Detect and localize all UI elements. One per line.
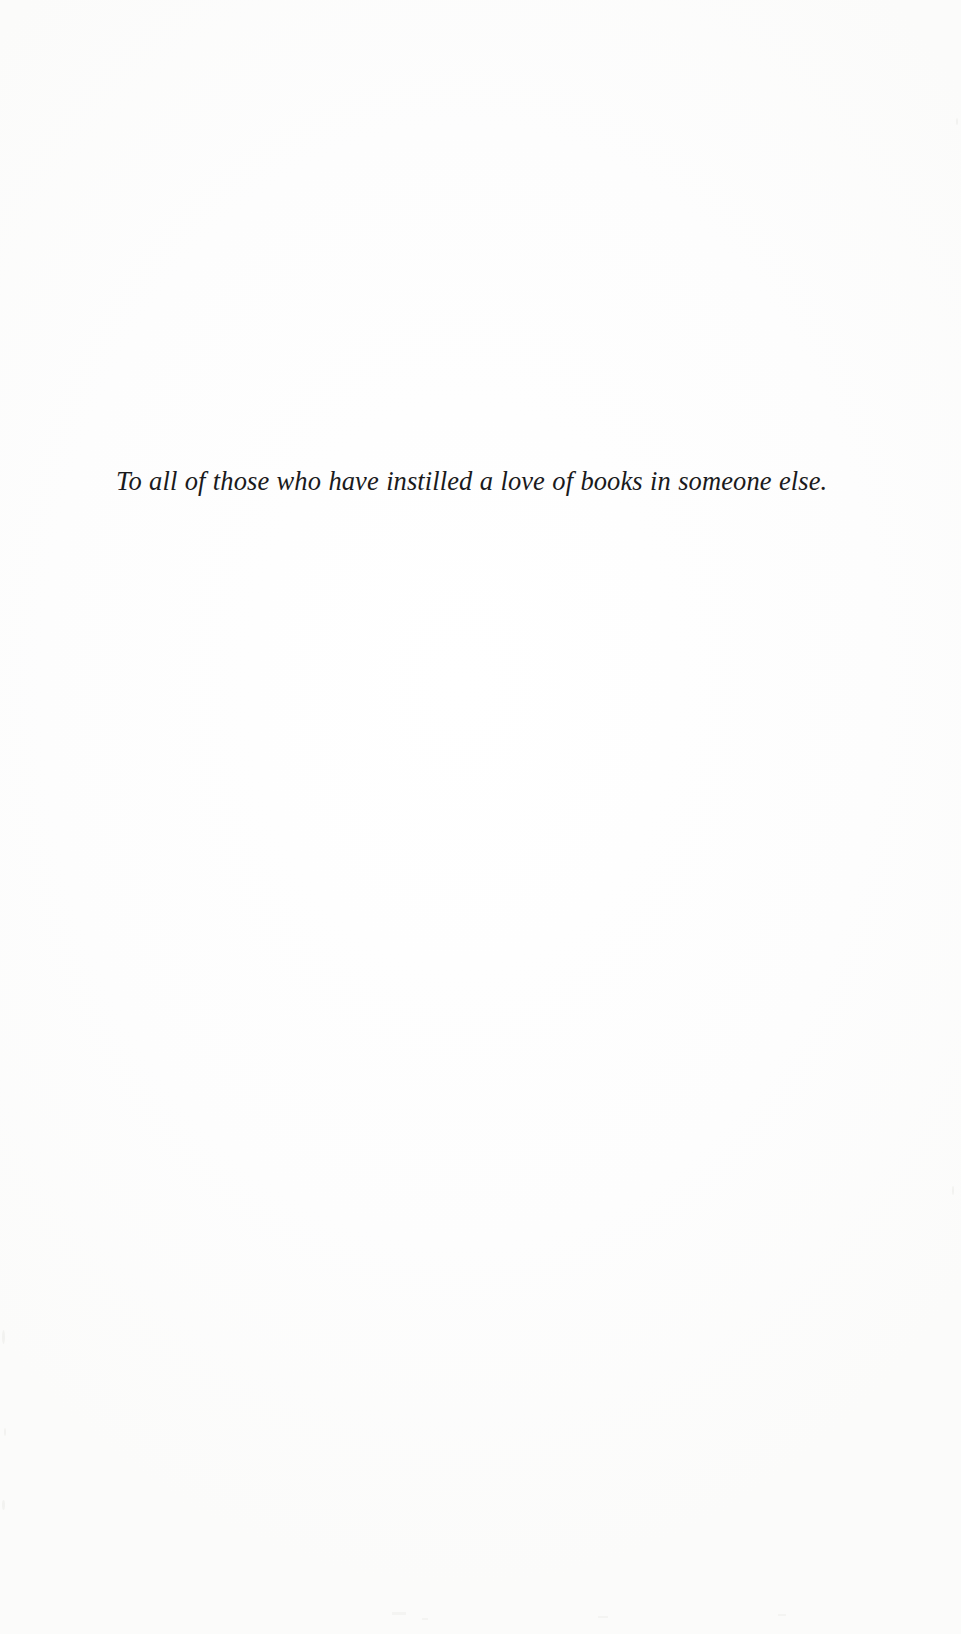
scan-artifact xyxy=(598,1616,608,1618)
scan-artifact xyxy=(778,1614,786,1616)
scan-artifact xyxy=(956,118,958,125)
dedication-block: To all of those who have instilled a lov… xyxy=(116,466,816,497)
scan-artifact xyxy=(2,1500,5,1510)
page-body: To all of those who have instilled a lov… xyxy=(0,0,961,1634)
scan-artifact xyxy=(392,1612,406,1615)
scan-artifact xyxy=(422,1618,428,1620)
scan-artifact xyxy=(4,1428,6,1436)
document-page: To all of those who have instilled a lov… xyxy=(0,0,961,1634)
scan-artifact xyxy=(952,1186,954,1195)
scan-artifact xyxy=(2,1330,5,1344)
dedication-text: To all of those who have instilled a lov… xyxy=(116,466,816,497)
